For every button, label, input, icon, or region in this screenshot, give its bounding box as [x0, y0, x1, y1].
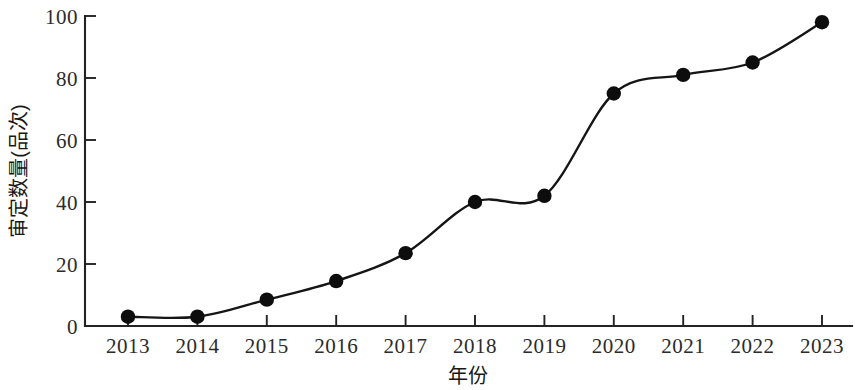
- data-point-2013: [121, 310, 135, 324]
- data-point-2021: [676, 68, 690, 82]
- data-point-2023: [815, 15, 829, 29]
- y-tick-label-60: 60: [56, 129, 78, 153]
- data-point-2020: [607, 86, 621, 100]
- x-tick-label-2013: 2013: [106, 334, 150, 358]
- y-axis-title: 审定数量(品次): [8, 104, 30, 237]
- y-tick-label-0: 0: [67, 315, 78, 339]
- x-tick-label-2018: 2018: [453, 334, 497, 358]
- data-point-2019: [537, 189, 551, 203]
- line-chart: 100 80 60 40 20 0 2013201420152016201720…: [0, 0, 855, 390]
- data-point-2017: [398, 246, 412, 260]
- x-axis-title: 年份: [448, 365, 488, 387]
- x-tick-label-2023: 2023: [800, 334, 844, 358]
- y-tick-label-100: 100: [45, 5, 78, 29]
- series-line-shending-shuliang: [128, 22, 822, 318]
- x-tick-label-2021: 2021: [661, 334, 705, 358]
- x-tick-label-2014: 2014: [175, 334, 219, 358]
- y-tick-label-20: 20: [56, 253, 78, 277]
- x-tick-marks: [128, 315, 822, 326]
- x-tick-label-2016: 2016: [314, 334, 358, 358]
- data-point-2022: [745, 55, 759, 69]
- x-tick-label-2017: 2017: [384, 334, 428, 358]
- chart-figure: 100 80 60 40 20 0 2013201420152016201720…: [0, 0, 855, 390]
- data-point-2014: [190, 310, 204, 324]
- x-tick-label-2015: 2015: [245, 334, 289, 358]
- x-tick-label-2019: 2019: [522, 334, 566, 358]
- x-tick-label-2020: 2020: [592, 334, 636, 358]
- data-point-2015: [260, 292, 274, 306]
- y-tick-label-80: 80: [56, 67, 78, 91]
- y-tick-label-40: 40: [56, 191, 78, 215]
- data-point-2018: [468, 195, 482, 209]
- y-tick-labels: 100 80 60 40 20 0: [45, 5, 78, 339]
- y-tick-marks: [85, 16, 96, 264]
- x-tick-label-2022: 2022: [731, 334, 775, 358]
- data-point-2016: [329, 274, 343, 288]
- x-tick-labels: 2013201420152016201720182019202020212022…: [106, 334, 844, 358]
- series-markers: [121, 15, 829, 324]
